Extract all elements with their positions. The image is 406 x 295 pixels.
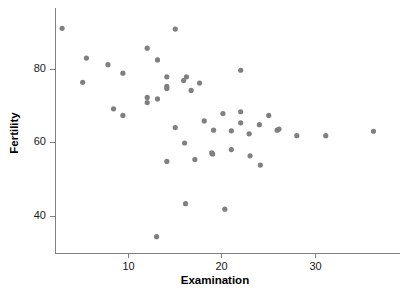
data-point	[266, 113, 271, 118]
data-points-layer	[60, 26, 377, 240]
data-point	[197, 81, 202, 86]
data-point	[182, 140, 187, 145]
data-point	[105, 62, 110, 67]
data-point	[120, 113, 125, 118]
x-axis-title: Examination	[181, 274, 249, 286]
data-point	[155, 57, 160, 62]
y-tick-label-80: 80	[34, 62, 46, 74]
data-point	[181, 78, 186, 83]
y-axis-title: Fertility	[8, 112, 20, 154]
x-tick-label-10: 10	[122, 260, 134, 272]
data-point	[164, 74, 169, 79]
data-point	[155, 96, 160, 101]
data-point	[111, 106, 116, 111]
y-axis-ticks: 80 60 40	[34, 62, 55, 221]
data-point	[164, 159, 169, 164]
data-point	[222, 207, 227, 212]
x-tick-label-20: 20	[215, 260, 227, 272]
scatter-plot-figure: 80 60 40 10 20 30 Examination Fertility	[0, 0, 406, 295]
data-point	[145, 95, 150, 100]
data-point	[173, 26, 178, 31]
data-point	[145, 46, 150, 51]
data-point	[257, 122, 262, 127]
data-point	[211, 128, 216, 133]
data-point	[192, 157, 197, 162]
plot-canvas: 80 60 40 10 20 30 Examination Fertility	[0, 0, 406, 295]
data-point	[238, 68, 243, 73]
data-point	[80, 80, 85, 85]
data-point	[154, 234, 159, 239]
data-point	[229, 147, 234, 152]
data-point	[238, 109, 243, 114]
x-tick-label-30: 30	[309, 260, 321, 272]
data-point	[238, 120, 243, 125]
x-axis-ticks: 10 20 30	[122, 253, 321, 272]
y-tick-label-40: 40	[34, 209, 46, 221]
data-point	[84, 56, 89, 61]
data-point	[275, 128, 280, 133]
data-point	[220, 111, 225, 116]
data-point	[247, 131, 252, 136]
data-point	[229, 128, 234, 133]
data-point	[173, 125, 178, 130]
data-point	[294, 133, 299, 138]
y-tick-label-60: 60	[34, 135, 46, 147]
data-point	[371, 129, 376, 134]
data-point	[183, 201, 188, 206]
data-point	[258, 162, 263, 167]
data-point	[145, 100, 150, 105]
data-point	[202, 118, 207, 123]
data-point	[60, 26, 65, 31]
data-point	[189, 88, 194, 93]
data-point	[247, 153, 252, 158]
data-point	[323, 133, 328, 138]
data-point	[164, 86, 169, 91]
axes-group	[55, 8, 400, 254]
data-point	[120, 71, 125, 76]
data-point	[210, 151, 215, 156]
